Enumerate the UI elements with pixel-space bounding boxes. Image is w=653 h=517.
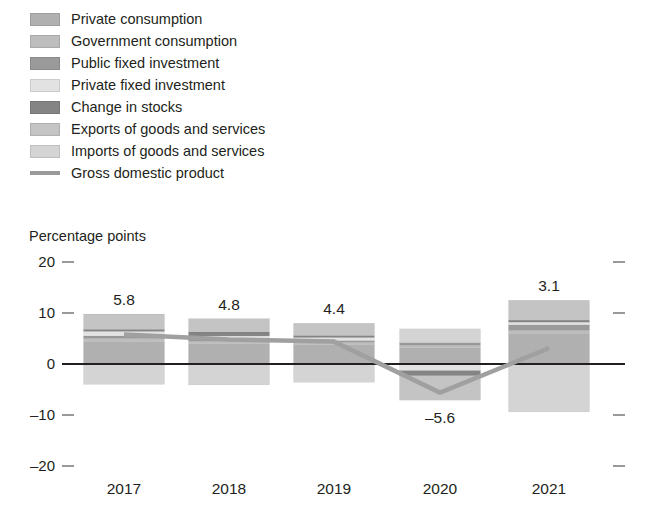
bar-segment-2020-government-consumption	[400, 345, 481, 348]
bar-segment-2019-change-in-stocks	[294, 335, 375, 337]
bar-segment-2021-change-in-stocks	[509, 320, 590, 322]
x-category-label-2017: 2017	[107, 480, 141, 497]
x-category-label-2021: 2021	[532, 480, 566, 497]
value-label-2017: 5.8	[113, 291, 135, 308]
bar-segment-2020-change-in-stocks	[400, 371, 481, 376]
x-category-label-2018: 2018	[212, 480, 246, 497]
y-tick-label-20: 20	[38, 253, 55, 270]
value-label-2021: 3.1	[538, 277, 560, 294]
bar-segment-2019-imports-of-goods-and-services	[294, 364, 375, 382]
y-tick-label--20: –20	[30, 457, 55, 474]
bar-segment-2019-exports-of-goods-and-services	[294, 323, 375, 335]
bar-segment-2017-government-consumption	[84, 339, 165, 342]
bar-segment-2020-imports-of-goods-and-services	[400, 329, 481, 343]
y-tick-label-0: 0	[47, 355, 55, 372]
chart-plot-area: 20100–10–20 5.84.84.4–5.63.1 20172018201…	[0, 0, 653, 517]
bar-segment-2018-change-in-stocks	[189, 332, 270, 336]
bar-segment-2021-private-fixed-investment	[509, 322, 590, 325]
bar-segment-2020-private-consumption	[400, 348, 481, 364]
x-category-label-2020: 2020	[423, 480, 458, 497]
bar-segment-2021-exports-of-goods-and-services	[509, 300, 590, 320]
bar-segment-2021-government-consumption	[509, 330, 590, 333]
x-category-label-2019: 2019	[317, 480, 351, 497]
bar-segment-2017-exports-of-goods-and-services	[84, 314, 165, 329]
y-tick-label-10: 10	[38, 304, 55, 321]
bar-segment-2018-exports-of-goods-and-services	[189, 319, 270, 332]
value-label-2020: –5.6	[425, 409, 455, 426]
bar-segment-2017-imports-of-goods-and-services	[84, 364, 165, 384]
bar-segment-2017-change-in-stocks	[84, 329, 165, 331]
bar-segment-2021-imports-of-goods-and-services	[509, 364, 590, 412]
bar-segment-2018-imports-of-goods-and-services	[189, 364, 270, 385]
y-tick-label--10: –10	[30, 406, 55, 423]
value-label-2019: 4.4	[323, 300, 345, 317]
bar-segment-2017-private-consumption	[84, 342, 165, 364]
bar-segment-2021-public-fixed-investment	[509, 325, 590, 331]
bar-segment-2020-public-fixed-investment	[400, 343, 481, 346]
value-label-2018: 4.8	[218, 296, 240, 313]
bar-segment-2018-private-consumption	[189, 344, 270, 364]
y-axis-tick-labels: 20100–10–20	[30, 253, 55, 474]
x-axis-category-labels: 20172018201920202021	[107, 480, 566, 497]
